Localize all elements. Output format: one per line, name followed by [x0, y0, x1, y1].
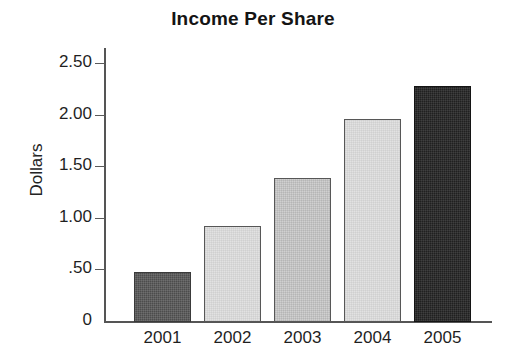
y-axis-tick-label: 2.50: [30, 52, 92, 72]
x-axis-tick-label-2004: 2004: [338, 328, 407, 348]
bar-2002[interactable]: [204, 226, 261, 322]
bar-2003[interactable]: [274, 178, 331, 322]
y-axis-tick-label: 1.50: [30, 155, 92, 175]
x-axis-tick-labels: 20012002200320042005: [104, 328, 492, 358]
y-axis-tick-label: 0: [30, 310, 92, 330]
plot-area: [104, 48, 492, 322]
y-axis-tick-mark: [95, 115, 105, 116]
x-axis-tick-label-2001: 2001: [128, 328, 197, 348]
x-axis-tick-label-2003: 2003: [268, 328, 337, 348]
y-axis-tick-labels: 0.501.001.502.002.50: [26, 0, 92, 363]
chart-figure: Income Per Share Dollars 0.501.001.502.0…: [0, 0, 506, 363]
y-axis-tick-label: 1.00: [30, 207, 92, 227]
x-axis-tick-label-2002: 2002: [198, 328, 267, 348]
bar-2005[interactable]: [414, 86, 471, 322]
y-axis-tick-label: .50: [30, 258, 92, 278]
bar-2001[interactable]: [134, 272, 191, 322]
y-axis-tick-label: 2.00: [30, 104, 92, 124]
bar-2004[interactable]: [344, 119, 401, 322]
y-axis-tick-mark: [95, 63, 105, 64]
y-axis-tick-mark: [95, 166, 105, 167]
x-axis-tick-label-2005: 2005: [408, 328, 477, 348]
y-axis-tick-mark: [95, 218, 105, 219]
y-axis-tick-mark: [95, 269, 105, 270]
